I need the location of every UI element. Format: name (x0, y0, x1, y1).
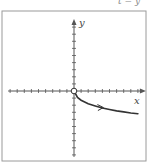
axes (8, 19, 146, 157)
x-axis-label: x (134, 95, 140, 106)
chart-plot: x y (0, 0, 149, 163)
y-axis-label: y (78, 17, 85, 28)
